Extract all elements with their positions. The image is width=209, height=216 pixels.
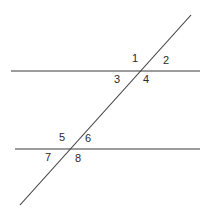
parallel-lines-diagram: 1 2 3 4 5 6 7 8 (0, 0, 209, 216)
angle-label-4: 4 (143, 73, 149, 85)
transversal-line (20, 15, 191, 205)
angle-label-7: 7 (45, 151, 51, 163)
angle-label-2: 2 (163, 54, 169, 66)
angle-label-8: 8 (75, 152, 81, 164)
angle-label-1: 1 (132, 52, 138, 64)
angle-label-6: 6 (85, 132, 91, 144)
angle-label-5: 5 (59, 131, 65, 143)
angle-label-3: 3 (114, 73, 120, 85)
